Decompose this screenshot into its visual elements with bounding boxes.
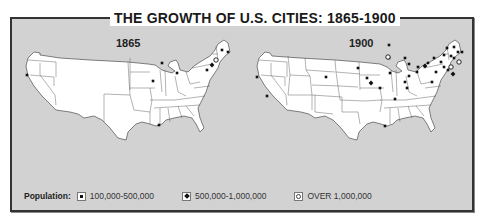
circle-icon xyxy=(294,192,303,201)
city-marker-small xyxy=(256,76,259,79)
city-marker-small xyxy=(389,72,392,75)
city-marker-medium xyxy=(451,72,456,77)
city-marker-small xyxy=(325,76,328,79)
city-marker-small xyxy=(394,98,397,101)
city-marker-small xyxy=(417,66,420,69)
city-marker-small xyxy=(404,81,407,84)
population-legend: Population: 100,000-500,000 500,000-1,00… xyxy=(24,190,400,202)
diamond-icon xyxy=(182,192,191,201)
city-marker-small xyxy=(427,62,430,65)
city-marker-medium xyxy=(423,64,428,69)
city-marker-small xyxy=(152,80,155,83)
city-marker-small xyxy=(461,51,464,54)
city-marker-small xyxy=(408,75,411,78)
city-marker-small xyxy=(457,51,460,54)
city-marker-small xyxy=(176,72,179,75)
city-marker-small xyxy=(404,57,407,60)
city-marker-small xyxy=(447,69,450,72)
city-marker-small xyxy=(357,67,360,70)
city-marker-small xyxy=(443,66,446,69)
city-marker-small xyxy=(406,87,409,90)
city-marker-large xyxy=(449,65,453,69)
legend-item-100k-500k: 100,000-500,000 xyxy=(77,191,154,201)
city-marker-small xyxy=(433,57,436,60)
city-marker-small xyxy=(227,51,230,54)
city-marker-small xyxy=(366,77,369,80)
city-marker-small xyxy=(266,95,269,98)
city-marker-small xyxy=(206,69,209,72)
city-markers xyxy=(0,0,482,222)
city-marker-small xyxy=(379,87,382,90)
square-dot-icon xyxy=(77,192,86,201)
city-marker-small xyxy=(408,63,411,66)
legend-item-over-1m: OVER 1,000,000 xyxy=(294,191,371,201)
city-marker-small xyxy=(388,44,391,47)
city-marker-medium xyxy=(369,81,374,86)
legend-label: Population: xyxy=(24,191,71,201)
city-marker-large xyxy=(214,58,218,62)
city-marker-small xyxy=(443,54,446,57)
city-marker-large xyxy=(386,55,390,59)
city-marker-small xyxy=(446,47,449,50)
city-marker-small xyxy=(416,71,419,74)
city-marker-small xyxy=(431,81,434,84)
legend-item-500k-1m: 500,000-1,000,000 xyxy=(182,191,266,201)
city-marker-small xyxy=(435,71,438,74)
city-marker-small xyxy=(158,124,161,127)
city-marker-small xyxy=(221,49,224,52)
city-marker-small xyxy=(450,55,453,58)
city-marker-small xyxy=(26,74,29,77)
city-marker-medium xyxy=(210,63,215,68)
city-marker-large xyxy=(457,60,461,64)
city-marker-small xyxy=(161,62,164,65)
city-marker-small xyxy=(453,46,456,49)
city-marker-small xyxy=(384,125,387,128)
city-marker-small xyxy=(453,57,456,60)
city-marker-small xyxy=(440,61,443,64)
